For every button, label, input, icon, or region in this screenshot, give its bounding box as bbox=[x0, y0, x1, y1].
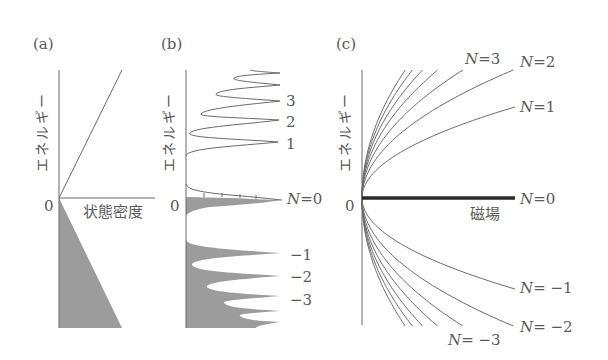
panel-c-label-n3-var: N bbox=[465, 50, 478, 68]
panel-c-label-n1: N=1 bbox=[520, 100, 555, 115]
panel-a bbox=[59, 70, 155, 328]
panel-c-label-n2-eq: =2 bbox=[533, 53, 555, 71]
panel-b-label-n1: 1 bbox=[286, 137, 296, 152]
panel-a-zero-label: 0 bbox=[44, 199, 54, 214]
panel-a-tag: (a) bbox=[33, 37, 54, 52]
panel-c-zero-label: 0 bbox=[345, 199, 355, 214]
panel-c-label-n0: N=0 bbox=[520, 192, 555, 207]
panel-c bbox=[362, 70, 515, 326]
panel-c-label-nm2-var: N bbox=[520, 318, 533, 336]
panel-c-label-nm3: N= −3 bbox=[448, 333, 501, 348]
panel-c-ylabel: エネルギー bbox=[338, 92, 352, 172]
panel-b-label-n0: N=0 bbox=[287, 192, 322, 207]
panel-b-label-n2: 2 bbox=[286, 115, 296, 130]
landau-level-curve bbox=[362, 198, 422, 326]
panel-c-label-nm3-var: N bbox=[448, 331, 461, 349]
panel-b-ylabel: エネルギー bbox=[162, 92, 176, 172]
panel-b-zero-level-filled bbox=[186, 197, 282, 216]
panel-b-lower-filled-dos bbox=[186, 240, 280, 328]
panel-c-label-nm1: N= −1 bbox=[520, 281, 573, 296]
panel-b-tag: (b) bbox=[161, 37, 182, 52]
panel-c-label-nm3-eq: = −3 bbox=[461, 331, 500, 349]
panel-c-label-n2-var: N bbox=[520, 53, 533, 71]
panel-c-label-nm2-eq: = −2 bbox=[533, 318, 572, 336]
panel-b-label-nm1: −1 bbox=[290, 248, 312, 263]
panel-b-upper-dos-curve bbox=[186, 70, 280, 156]
panel-c-label-nm1-var: N bbox=[520, 279, 533, 297]
panel-c-label-n2: N=2 bbox=[520, 55, 555, 70]
panel-b-label-n0-eq: =0 bbox=[300, 190, 322, 208]
panel-b bbox=[186, 70, 282, 328]
panel-b-label-nm2: −2 bbox=[290, 270, 312, 285]
panel-c-label-n0-var: N bbox=[520, 190, 533, 208]
panel-b-label-n3: 3 bbox=[286, 94, 296, 109]
panel-a-dos-line bbox=[59, 70, 122, 198]
landau-level-curve bbox=[362, 107, 515, 198]
panel-b-zero-label: 0 bbox=[170, 199, 180, 214]
panel-c-label-n0-eq: =0 bbox=[533, 190, 555, 208]
panel-c-label-nm2: N= −2 bbox=[520, 320, 573, 335]
landau-level-curve bbox=[362, 70, 422, 198]
panel-c-label-n3: N=3 bbox=[465, 52, 500, 67]
panel-c-label-n1-var: N bbox=[520, 98, 533, 116]
panel-c-xlabel: 磁場 bbox=[470, 207, 500, 222]
panel-c-label-n3-eq: =3 bbox=[478, 50, 500, 68]
panel-b-label-nm3: −3 bbox=[290, 293, 312, 308]
panel-c-label-nm1-eq: = −1 bbox=[533, 279, 572, 297]
panel-a-ylabel: エネルギー bbox=[35, 92, 49, 172]
panel-a-xlabel: 状態密度 bbox=[83, 205, 143, 220]
panel-b-label-n0-var: N bbox=[287, 190, 300, 208]
panel-c-label-n1-eq: =1 bbox=[533, 98, 555, 116]
panel-c-tag: (c) bbox=[336, 37, 356, 52]
